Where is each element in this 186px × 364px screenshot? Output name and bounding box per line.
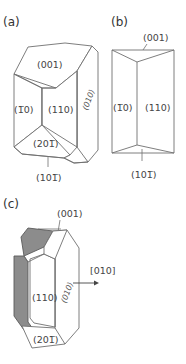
label-001-b: (001)	[143, 32, 169, 43]
label-20-1: (201̅)	[33, 138, 59, 149]
label-direction-010: [010]	[90, 265, 116, 276]
face-110-c	[30, 254, 55, 327]
crystal-morphology-figure: (a) (001) (1̅0) (110) (010) (201̅) (101̅…	[0, 0, 186, 364]
label-20-1-c: (201̅)	[33, 334, 59, 345]
panel-b: (b) (001) (1̅0) (110) (101̅)	[111, 15, 174, 180]
label-110-c: (110)	[32, 292, 58, 303]
label-1-10-b: (1̅0)	[113, 102, 133, 113]
panel-a-label: (a)	[3, 15, 20, 29]
panel-c-label: (c)	[3, 197, 19, 211]
label-001-c: (001)	[57, 208, 83, 219]
label-110-b: (110)	[145, 102, 171, 113]
label-110: (110)	[48, 104, 74, 115]
panel-c: (c) (001) (110) (010) (201̅) [010]	[3, 197, 116, 348]
label-1-10: (1̅0)	[14, 104, 34, 115]
label-10-1: (101̅)	[36, 172, 62, 183]
label-001: (001)	[37, 59, 63, 70]
arrow-head-icon	[94, 281, 99, 286]
panel-b-label: (b)	[111, 15, 128, 29]
panel-a: (a) (001) (1̅0) (110) (010) (201̅) (101̅…	[3, 15, 98, 183]
label-10-1-b: (101̅)	[131, 169, 157, 180]
